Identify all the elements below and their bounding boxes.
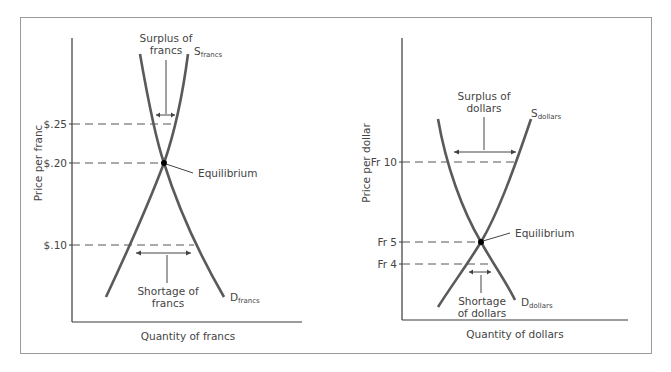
tick-label-10: $.10 bbox=[44, 239, 67, 251]
demand-label-dollars: Ddollars bbox=[521, 296, 553, 310]
arrowhead-right-icon bbox=[186, 251, 191, 256]
demand-label-francs: Dfrancs bbox=[230, 291, 260, 305]
arrowhead-left-icon bbox=[136, 251, 141, 256]
equilibrium-leader bbox=[166, 164, 193, 173]
shortage-label-francs-1: Shortage of bbox=[137, 285, 198, 297]
left-y-axis-title: Price per franc bbox=[32, 124, 44, 201]
demand-curve-dollars bbox=[438, 119, 515, 300]
tick-label-25: $.25 bbox=[44, 118, 67, 130]
shortage-label-francs-2: francs bbox=[152, 297, 184, 309]
surplus-label-dollars-1: Surplus of bbox=[458, 90, 511, 102]
right-panel-dollars: Price per dollar Quantity of dollars Fr … bbox=[360, 38, 628, 340]
tick-label-fr4: Fr 4 bbox=[377, 258, 397, 270]
equilibrium-label-dollars: Equilibrium bbox=[515, 227, 575, 239]
supply-label-dollars: Sdollars bbox=[531, 107, 561, 121]
tick-label-fr5: Fr 5 bbox=[377, 236, 397, 248]
supply-label-francs: Sfrancs bbox=[194, 45, 223, 59]
equilibrium-leader-dollars bbox=[483, 233, 510, 241]
left-panel-francs: Price per franc Quantity of francs $.25 … bbox=[32, 32, 302, 342]
shortage-label-dollars-1: Shortage bbox=[458, 295, 506, 307]
tick-label-fr10: Fr 10 bbox=[371, 156, 397, 168]
shortage-label-dollars-2: of dollars bbox=[458, 307, 507, 319]
arrowhead-left-icon bbox=[469, 270, 473, 275]
equilibrium-point-dollars bbox=[478, 239, 484, 245]
tick-label-20: $.20 bbox=[44, 157, 67, 169]
right-x-axis-title: Quantity of dollars bbox=[466, 328, 563, 340]
figure-frame bbox=[21, 18, 652, 354]
surplus-label-dollars-2: dollars bbox=[466, 102, 501, 114]
arrowhead-right-icon bbox=[487, 270, 491, 275]
arrowhead-right-icon bbox=[171, 113, 175, 118]
equilibrium-label-francs: Equilibrium bbox=[198, 167, 258, 179]
surplus-label-francs-2: francs bbox=[150, 44, 182, 56]
surplus-label-francs-1: Surplus of bbox=[140, 32, 193, 44]
arrowhead-left-icon bbox=[454, 150, 459, 155]
arrowhead-right-icon bbox=[511, 150, 516, 155]
exchange-rate-diagram: Price per franc Quantity of francs $.25 … bbox=[0, 0, 671, 372]
left-x-axis-title: Quantity of francs bbox=[141, 330, 236, 342]
arrowhead-left-icon bbox=[156, 113, 160, 118]
equilibrium-point-francs bbox=[161, 160, 167, 166]
